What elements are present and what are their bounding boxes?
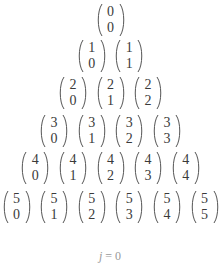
right-paren-icon <box>137 114 144 148</box>
binomial-coefficient: 41 <box>58 151 88 185</box>
binomial-coefficient: 10 <box>77 39 107 73</box>
right-paren-icon <box>175 190 182 224</box>
binomial-coefficient: 54 <box>152 190 182 224</box>
binomial-coefficient: 44 <box>171 151 201 185</box>
binomial-coefficient: 11 <box>114 39 144 73</box>
right-paren-icon <box>81 151 88 185</box>
right-paren-icon <box>100 190 107 224</box>
binomial-coefficient: 21 <box>96 76 126 110</box>
binomial-coefficient: 42 <box>96 151 126 185</box>
binomial-coefficient: 31 <box>77 114 107 148</box>
binomial-coefficient: 33 <box>152 114 182 148</box>
right-paren-icon <box>100 114 107 148</box>
right-paren-icon <box>25 190 32 224</box>
binomial-coefficient: 20 <box>58 76 88 110</box>
binomial-coefficient: 50 <box>2 190 32 224</box>
binomial-coefficient: 55 <box>190 190 220 224</box>
right-paren-icon <box>62 114 69 148</box>
binomial-coefficient: 22 <box>133 76 163 110</box>
right-paren-icon <box>100 39 107 73</box>
right-paren-icon <box>119 76 126 110</box>
binomial-coefficient: 40 <box>20 151 50 185</box>
caption-operator: = <box>102 249 115 263</box>
binomial-coefficient: 30 <box>39 114 69 148</box>
right-paren-icon <box>81 76 88 110</box>
right-paren-icon <box>119 3 126 37</box>
pascal-triangle: 0010112021223031323340414243445051525354… <box>0 0 220 271</box>
binomial-coefficient: 51 <box>39 190 69 224</box>
right-paren-icon <box>62 190 69 224</box>
right-paren-icon <box>43 151 50 185</box>
caption-value: 0 <box>115 249 121 263</box>
right-paren-icon <box>156 76 163 110</box>
binomial-coefficient: 52 <box>77 190 107 224</box>
right-paren-icon <box>194 151 201 185</box>
binomial-coefficient: 53 <box>114 190 144 224</box>
caption: j = 0 <box>0 249 220 264</box>
binomial-coefficient: 00 <box>96 3 126 37</box>
binomial-coefficient: 43 <box>133 151 163 185</box>
right-paren-icon <box>137 39 144 73</box>
right-paren-icon <box>119 151 126 185</box>
right-paren-icon <box>137 190 144 224</box>
right-paren-icon <box>156 151 163 185</box>
binomial-coefficient: 32 <box>114 114 144 148</box>
right-paren-icon <box>213 190 220 224</box>
right-paren-icon <box>175 114 182 148</box>
